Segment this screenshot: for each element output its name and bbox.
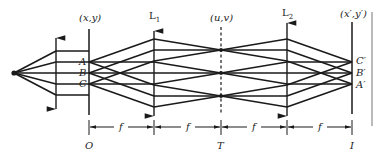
lens2-label: L2 bbox=[282, 8, 293, 21]
image-point-a-prime: A′ bbox=[356, 80, 366, 90]
distance-label-2: f bbox=[186, 122, 190, 132]
transform-to-lens2-rays bbox=[221, 39, 287, 107]
point-source bbox=[11, 70, 16, 75]
object-point-a: A bbox=[79, 57, 86, 67]
distance-label-3: f bbox=[252, 122, 256, 132]
object-point-c: C bbox=[79, 79, 87, 89]
lens1-label-sub: 1 bbox=[156, 16, 160, 24]
transform-plane-label: T bbox=[217, 141, 224, 151]
lens1-label-text: L bbox=[149, 10, 156, 21]
source-rays bbox=[14, 51, 56, 95]
dimension-line bbox=[89, 120, 352, 135]
object-to-lens1-rays bbox=[89, 39, 154, 107]
object-plane-coord-label: (x,y) bbox=[79, 13, 101, 23]
4f-optical-system-diagram bbox=[0, 0, 379, 159]
lens1-to-transform-rays bbox=[154, 39, 221, 107]
lens2-to-image-rays bbox=[287, 39, 352, 107]
lens2-label-text: L bbox=[282, 7, 289, 18]
distance-label-4: f bbox=[318, 122, 322, 132]
object-plane-label: O bbox=[85, 141, 93, 151]
image-point-b-prime: B′ bbox=[356, 68, 366, 78]
distance-label-1: f bbox=[119, 122, 123, 132]
image-plane-coord-label: (x′,y′) bbox=[340, 9, 367, 19]
transform-plane-coord-label: (u,v) bbox=[210, 13, 233, 23]
lens1-label: L1 bbox=[149, 11, 160, 24]
image-point-c-prime: C′ bbox=[356, 56, 366, 66]
object-point-b: B bbox=[79, 68, 86, 78]
lens2-label-sub: 2 bbox=[289, 13, 293, 21]
image-plane-label: I bbox=[350, 141, 354, 151]
